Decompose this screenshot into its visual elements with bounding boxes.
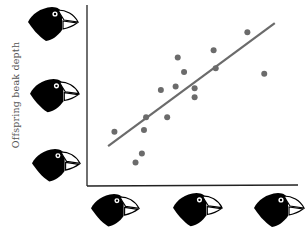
data-point [143, 114, 149, 120]
scatter-chart [0, 0, 308, 233]
data-points [111, 29, 267, 165]
data-point [181, 69, 187, 75]
data-point [213, 65, 219, 71]
data-point [111, 129, 117, 135]
data-point [133, 159, 139, 165]
data-point [173, 83, 179, 89]
regression-line [108, 23, 275, 146]
data-point [211, 47, 217, 53]
data-point [175, 54, 181, 60]
data-point [139, 150, 145, 156]
y-axis-label: Offspring beak depth [10, 40, 24, 150]
data-point [192, 85, 198, 91]
finch-head-icon [91, 194, 139, 227]
data-point [164, 114, 170, 120]
finch-head-icon [32, 149, 80, 182]
data-point [158, 87, 164, 93]
finch-head-icon [173, 193, 222, 226]
data-point [261, 71, 267, 77]
data-point [141, 127, 147, 133]
finch-head-icon [30, 79, 79, 112]
data-point [192, 94, 198, 100]
x-axis [87, 185, 298, 186]
trend-line [108, 23, 275, 146]
data-point [244, 29, 250, 35]
finch-head-icon [28, 7, 78, 41]
finch-head-icon [254, 193, 304, 227]
